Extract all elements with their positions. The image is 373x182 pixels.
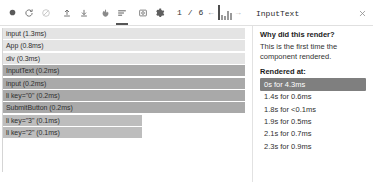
chart-row-label: li key="0" (0.2ms): [6, 92, 60, 99]
commit-bar-chart[interactable]: [217, 5, 232, 20]
component-details-panel: Why did this render? This is the first t…: [252, 26, 373, 182]
chart-row-label: SubmitButton (0.2ms): [6, 104, 73, 111]
rendered-at-item[interactable]: 1.4s for 0.6ms: [260, 91, 366, 103]
profiler-toolbar: 1 / 6 ← → InputText: [0, 0, 373, 26]
chart-row-label: input (0.2ms): [6, 80, 46, 87]
chart-row[interactable]: input (1.3ms): [3, 28, 245, 39]
download-icon[interactable]: [77, 6, 91, 20]
rendered-at-heading: Rendered at:: [260, 67, 366, 76]
chart-row[interactable]: li key="2" (0.1ms): [3, 127, 142, 138]
selected-component-name: InputText: [256, 9, 299, 18]
ranked-icon[interactable]: [115, 6, 129, 20]
reload-icon[interactable]: [22, 6, 36, 20]
ranked-chart: input (1.3ms) App (0.8ms) div (0.3ms) In…: [0, 26, 252, 182]
selected-component-title-wrap: InputText: [256, 0, 299, 26]
rendered-at-item[interactable]: 1.9s for 0.5ms: [260, 115, 366, 127]
snapshot-icon[interactable]: [136, 6, 150, 20]
settings-icon[interactable]: [153, 6, 167, 20]
chart-row-label: InputText (0.2ms): [6, 67, 59, 74]
chart-row[interactable]: li key="0" (0.2ms): [3, 90, 245, 101]
chart-row-label: li key="3" (0.1ms): [6, 117, 60, 124]
chart-row-label: li key="2" (0.1ms): [6, 129, 60, 136]
flamegraph-icon[interactable]: [98, 6, 112, 20]
chart-row-label: div (0.3ms): [6, 55, 40, 62]
commit-page-indicator: 1 / 6: [174, 8, 207, 17]
chart-row[interactable]: div (0.3ms): [3, 53, 245, 64]
chart-row-selected[interactable]: InputText (0.2ms): [3, 65, 245, 76]
commit-bar[interactable]: [221, 15, 223, 20]
chart-row[interactable]: SubmitButton (0.2ms): [3, 102, 245, 113]
rendered-at-item[interactable]: 2.3s for 0.9ms: [260, 140, 366, 152]
commit-bar[interactable]: [224, 16, 226, 20]
rendered-at-item[interactable]: 0s for 4.3ms: [260, 78, 366, 90]
react-profiler-window: 1 / 6 ← → InputText: [0, 0, 373, 182]
chart-row[interactable]: App (0.8ms): [3, 40, 245, 51]
profiler-body: input (1.3ms) App (0.8ms) div (0.3ms) In…: [0, 26, 373, 182]
chart-row[interactable]: input (0.2ms): [3, 78, 245, 89]
chart-row-label: input (1.3ms): [6, 30, 46, 37]
rendered-at-item[interactable]: 1.8s for <0.1ms: [260, 103, 366, 115]
chart-row-label: App (0.8ms): [6, 42, 44, 49]
rendered-at-item[interactable]: 2.1s for 0.7ms: [260, 128, 366, 140]
why-render-text: This is the first time the component ren…: [260, 42, 366, 62]
commit-selector[interactable]: ← →: [207, 5, 242, 20]
chart-row[interactable]: li key="3" (0.1ms): [3, 115, 142, 126]
commit-bar[interactable]: [218, 5, 220, 20]
record-icon[interactable]: [5, 6, 19, 20]
clear-icon[interactable]: [39, 6, 53, 20]
rendered-at-list: 0s for 4.3ms 1.4s for 0.6ms 1.8s for <0.…: [260, 78, 366, 152]
why-render-heading: Why did this render?: [260, 30, 366, 39]
commit-bar[interactable]: [230, 13, 232, 20]
chart-rows: input (1.3ms) App (0.8ms) div (0.3ms) In…: [0, 28, 252, 138]
commit-bar[interactable]: [227, 11, 229, 20]
prev-commit-arrow[interactable]: ←: [207, 9, 215, 17]
next-commit-arrow[interactable]: →: [234, 9, 242, 17]
close-icon[interactable]: [358, 9, 367, 18]
upload-icon[interactable]: [60, 6, 74, 20]
